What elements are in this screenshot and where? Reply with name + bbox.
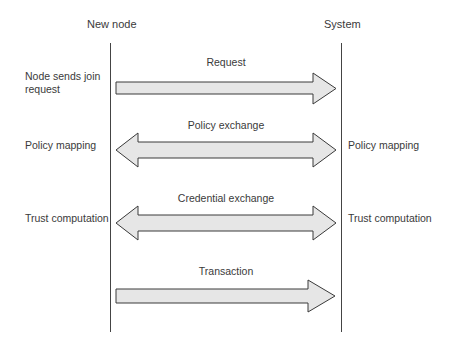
policy-exchange-arrow-icon — [116, 133, 336, 167]
transaction-arrow-icon — [116, 280, 335, 312]
message-arrows — [0, 0, 451, 348]
credential-exchange-arrow-icon — [116, 206, 336, 240]
request-arrow-icon — [116, 73, 336, 104]
